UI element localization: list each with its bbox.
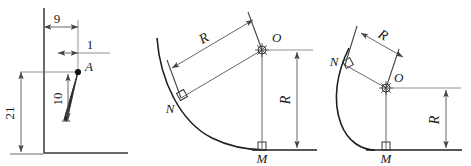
figure-shallow-arc: M N O R R bbox=[157, 12, 317, 166]
extension-line-n bbox=[167, 60, 181, 98]
radius-line-on bbox=[345, 65, 386, 88]
point-m-label: M bbox=[380, 151, 393, 166]
blade-leading-edge bbox=[64, 72, 78, 120]
arc-curve bbox=[157, 38, 266, 150]
point-m-label: M bbox=[256, 151, 269, 166]
point-n-label: N bbox=[165, 101, 176, 116]
point-a-label: A bbox=[84, 59, 93, 74]
extension-line-o bbox=[248, 12, 262, 50]
point-o-label: O bbox=[272, 30, 282, 45]
dimension-label-radius-no: R bbox=[375, 26, 391, 44]
figure-tight-arc: M N O R R bbox=[329, 26, 462, 166]
dimension-line-radius-no bbox=[172, 20, 253, 68]
dimension-label-1: 1 bbox=[87, 37, 94, 52]
technical-drawing-sheet: 9 1 A 10 21 bbox=[0, 0, 471, 166]
drawing-canvas: 9 1 A 10 21 bbox=[0, 0, 471, 166]
point-n-label: N bbox=[329, 54, 340, 69]
dimension-label-radius-om: R bbox=[278, 95, 293, 105]
dimension-label-9: 9 bbox=[54, 11, 61, 26]
point-a-marker bbox=[75, 69, 81, 75]
dimension-label-radius-no: R bbox=[195, 29, 211, 47]
radius-line-on bbox=[181, 50, 262, 98]
point-o-label: O bbox=[394, 70, 404, 85]
dimension-label-radius-om: R bbox=[427, 115, 442, 125]
dimension-label-21: 21 bbox=[2, 107, 17, 120]
figure-blade-section: 9 1 A 10 21 bbox=[2, 8, 128, 154]
arc-curve bbox=[336, 48, 375, 150]
dimension-label-10: 10 bbox=[50, 93, 65, 106]
